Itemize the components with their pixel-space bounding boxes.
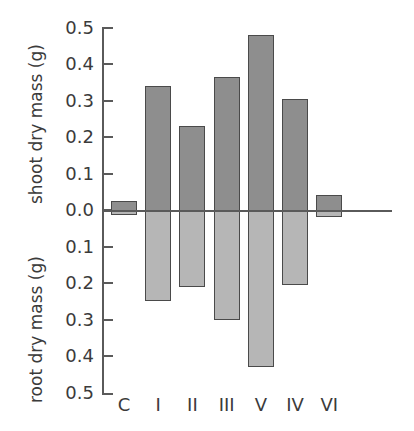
x-category-label-VI: VI [309,396,349,414]
y-axis-tick-labels: 0.50.40.30.20.10.00.10.20.30.40.5 [42,0,94,431]
y-axis-line [102,27,104,395]
y-tick-label: 0.3 [42,311,94,329]
bar-shoot-I [145,86,171,211]
bar-shoot-II [179,126,205,211]
y-tick-label: 0.2 [42,128,94,146]
y-tick-label: 0.3 [42,92,94,110]
y-tick-mark [104,355,113,357]
bar-root-V [248,210,274,367]
bar-root-IV [282,210,308,285]
y-tick-label: 0.5 [42,19,94,37]
bar-shoot-V [248,35,274,211]
y-tick-label: 0.4 [42,55,94,73]
x-axis-category-labels: CIIIIIIVIVVI [102,396,392,426]
bar-root-III [214,210,240,320]
y-tick-mark [104,173,113,175]
chart-figure: shoot dry mass (g) root dry mass (g) 0.5… [0,0,414,431]
zero-baseline [102,210,392,212]
y-tick-mark [104,136,113,138]
y-tick-mark [104,282,113,284]
bar-shoot-VI [316,195,342,211]
bar-shoot-IV [282,99,308,211]
y-tick-mark [104,246,113,248]
y-tick-label: 0.1 [42,165,94,183]
y-tick-label: 0.4 [42,347,94,365]
y-tick-label: 0.2 [42,274,94,292]
bar-root-I [145,210,171,301]
bar-shoot-III [214,77,240,211]
y-tick-mark [104,100,113,102]
y-tick-label: 0.5 [42,384,94,402]
bar-root-II [179,210,205,287]
plot-area [102,27,392,395]
y-tick-label: 0.0 [42,201,94,219]
y-tick-label: 0.1 [42,238,94,256]
y-tick-mark [104,63,113,65]
y-tick-mark [104,319,113,321]
